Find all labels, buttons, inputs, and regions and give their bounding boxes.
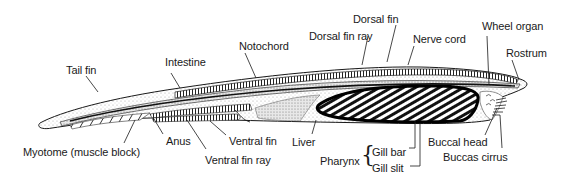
label-rostrum: Rostrum bbox=[506, 47, 547, 59]
label-dorsal-fin: Dorsal fin bbox=[353, 13, 398, 25]
label-liver: Liver bbox=[292, 136, 315, 148]
label-gill-bar: Gill bar bbox=[372, 146, 406, 158]
lancelet-diagram: Tail fin Intestine Notochord Dorsal fin … bbox=[0, 0, 572, 182]
label-gill-slit: Gill slit bbox=[372, 162, 404, 174]
label-buccal-head: Buccal head bbox=[428, 136, 487, 148]
label-anus: Anus bbox=[166, 135, 191, 147]
label-ventral-fin: Ventral fin bbox=[229, 135, 277, 147]
label-tail-fin: Tail fin bbox=[66, 64, 96, 76]
label-nerve-cord: Nerve cord bbox=[413, 33, 466, 45]
label-pharynx: Pharynx bbox=[320, 155, 360, 167]
label-dorsal-fin-ray: Dorsal fin ray bbox=[309, 30, 372, 42]
label-intestine: Intestine bbox=[165, 56, 206, 68]
label-ventral-fin-ray: Ventral fin ray bbox=[205, 154, 271, 166]
label-myotome: Myotome (muscle block) bbox=[23, 146, 140, 158]
label-notochord: Notochord bbox=[239, 40, 289, 52]
label-wheel-organ: Wheel organ bbox=[482, 20, 543, 32]
label-buccas-cirrus: Buccas cirrus bbox=[443, 151, 508, 163]
